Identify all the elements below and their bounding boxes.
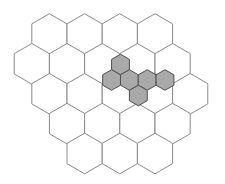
shaded-hex-cell (156, 70, 174, 91)
hex-grid-diagram (0, 0, 225, 184)
large-hex-grid (14, 14, 208, 174)
shaded-hex-cell (129, 85, 147, 106)
shaded-hex-cell (103, 70, 121, 91)
